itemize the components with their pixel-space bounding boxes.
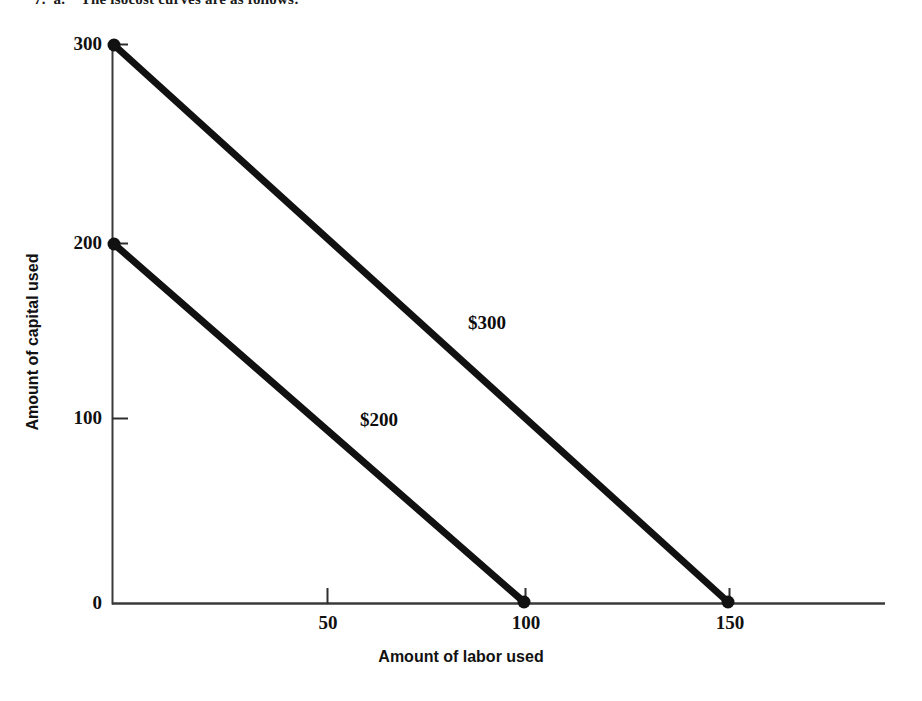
origin-label: 0 xyxy=(60,592,102,614)
isocost-line-200 xyxy=(114,244,524,602)
series-label-300: $300 xyxy=(468,312,506,334)
y-axis-title: Amount of capital used xyxy=(24,222,42,462)
y-axis-title-wrap: Amount of capital used xyxy=(22,224,44,464)
y-tick-label-300: 300 xyxy=(50,33,102,55)
plot-canvas xyxy=(0,0,922,701)
isocost-200-marker-end xyxy=(518,596,531,609)
x-axis-title: Amount of labor used xyxy=(0,648,922,666)
x-tick-label-50: 50 xyxy=(288,612,368,634)
y-tick-label-200: 200 xyxy=(50,232,102,254)
y-tick-label-100: 100 xyxy=(50,407,102,429)
x-tick-label-100: 100 xyxy=(486,612,566,634)
isocost-chart-figure: 300 200 100 0 50 100 150 $300 $200 Amoun… xyxy=(0,0,922,701)
isocost-200-marker-start xyxy=(108,238,121,251)
isocost-300-marker-end xyxy=(722,596,735,609)
series-label-200: $200 xyxy=(360,409,398,431)
x-tick-label-150: 150 xyxy=(690,612,770,634)
isocost-300-marker-start xyxy=(108,39,121,52)
